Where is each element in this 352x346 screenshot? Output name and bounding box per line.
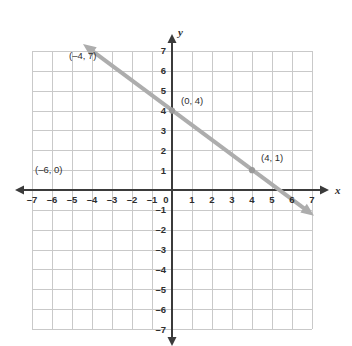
data-point-marker bbox=[249, 167, 255, 173]
x-tick-label: –2 bbox=[127, 194, 138, 205]
label-neg4-7: (–4, 7) bbox=[69, 50, 96, 61]
y-tick-label: 2 bbox=[161, 145, 166, 156]
y-tick-label: –1 bbox=[155, 204, 166, 215]
y-tick-label: 4 bbox=[161, 105, 167, 116]
y-tick-label: –3 bbox=[155, 244, 166, 255]
x-tick-label: –3 bbox=[107, 194, 118, 205]
y-axis-label: y bbox=[176, 26, 183, 38]
x-axis-label: x bbox=[334, 184, 341, 196]
label-neg6-0: (–6, 0) bbox=[35, 164, 62, 175]
x-tick-label: –1 bbox=[147, 194, 158, 205]
x-tick-label: –7 bbox=[27, 194, 38, 205]
y-tick-label: 5 bbox=[161, 85, 167, 96]
x-tick-label: 3 bbox=[229, 194, 234, 205]
y-tick-label: 6 bbox=[161, 65, 166, 76]
x-tick-label: –6 bbox=[47, 194, 58, 205]
x-tick-label: 2 bbox=[209, 194, 214, 205]
x-tick-label: –5 bbox=[67, 194, 78, 205]
y-tick-label: –5 bbox=[155, 284, 166, 295]
x-tick-label: 1 bbox=[189, 194, 195, 205]
y-tick-label: –4 bbox=[155, 264, 166, 275]
x-tick-label: 5 bbox=[269, 194, 275, 205]
graph-svg: –7–6–5–4–3–2–1012345677654321–1–2–3–4–5–… bbox=[0, 0, 352, 346]
x-tick-label: –4 bbox=[87, 194, 98, 205]
x-tick-label-origin: 0 bbox=[163, 194, 168, 205]
y-tick-label: –6 bbox=[155, 304, 166, 315]
y-tick-label: 7 bbox=[161, 45, 166, 56]
y-tick-label: 3 bbox=[161, 125, 166, 136]
x-tick-label: 7 bbox=[309, 194, 314, 205]
y-tick-label: –2 bbox=[155, 224, 166, 235]
y-tick-label: –7 bbox=[155, 324, 166, 335]
x-tick-label: 6 bbox=[289, 194, 294, 205]
data-point-marker bbox=[169, 107, 175, 113]
label-0-4: (0, 4) bbox=[181, 95, 203, 106]
x-tick-label: 4 bbox=[249, 194, 255, 205]
label-4-1: (4, 1) bbox=[261, 152, 283, 163]
y-tick-label: 1 bbox=[161, 165, 167, 176]
coordinate-plane-figure: –7–6–5–4–3–2–1012345677654321–1–2–3–4–5–… bbox=[0, 0, 352, 346]
